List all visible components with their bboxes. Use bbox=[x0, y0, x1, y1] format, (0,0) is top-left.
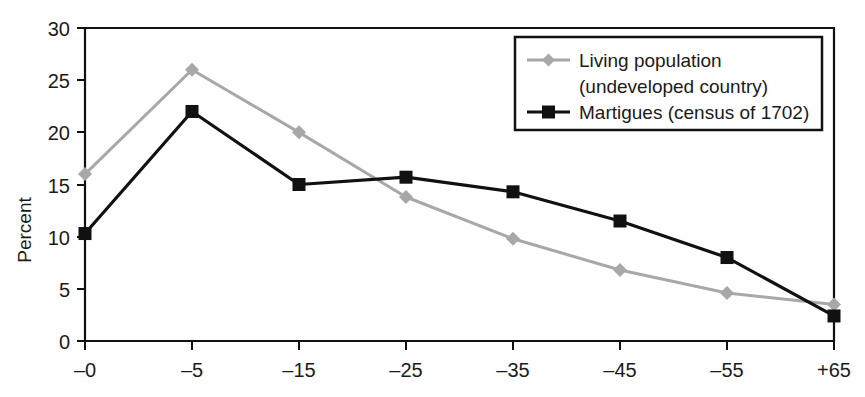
y-axis-labels: 30 25 20 15 10 5 0 bbox=[48, 18, 70, 353]
y-axis-ticks bbox=[77, 28, 85, 341]
y-axis-label-10: 10 bbox=[48, 227, 70, 249]
data-point bbox=[720, 286, 734, 300]
data-point bbox=[827, 297, 841, 311]
line-chart: 30 25 20 15 10 5 0 Percent –0 –5 –15 –25 bbox=[0, 0, 865, 397]
data-point bbox=[613, 263, 627, 277]
y-axis-label-0: 0 bbox=[59, 331, 70, 353]
data-point bbox=[79, 227, 92, 240]
y-axis-label-25: 25 bbox=[48, 70, 70, 92]
legend-label-living-population-line2: (undeveloped country) bbox=[579, 76, 768, 97]
x-axis-label-6: –55 bbox=[710, 359, 743, 381]
y-axis-title: Percent bbox=[14, 197, 35, 263]
data-point bbox=[614, 215, 627, 228]
x-axis-label-1: –5 bbox=[181, 359, 203, 381]
data-point bbox=[399, 190, 413, 204]
y-axis-label-15: 15 bbox=[48, 175, 70, 197]
data-point bbox=[292, 125, 306, 139]
x-axis-label-2: –15 bbox=[282, 359, 315, 381]
y-axis-label-5: 5 bbox=[59, 279, 70, 301]
legend-label-living-population-line1: Living population bbox=[579, 50, 722, 71]
legend-label-martigues: Martigues (census of 1702) bbox=[579, 102, 809, 123]
data-point bbox=[721, 251, 734, 264]
data-point bbox=[506, 232, 520, 246]
x-axis-label-7: +65 bbox=[817, 359, 851, 381]
chart-legend: Living population (undeveloped country) … bbox=[515, 37, 822, 130]
x-axis-label-3: –25 bbox=[389, 359, 422, 381]
y-axis-label-30: 30 bbox=[48, 18, 70, 40]
x-axis-label-5: –45 bbox=[603, 359, 636, 381]
y-axis-label-20: 20 bbox=[48, 122, 70, 144]
chart-container: 30 25 20 15 10 5 0 Percent –0 –5 –15 –25 bbox=[0, 0, 865, 397]
x-axis-label-0: –0 bbox=[74, 359, 96, 381]
data-point bbox=[400, 171, 413, 184]
data-point bbox=[293, 178, 306, 191]
x-axis-ticks bbox=[85, 341, 834, 350]
series-line bbox=[85, 111, 834, 315]
data-point bbox=[507, 185, 520, 198]
data-point bbox=[186, 105, 199, 118]
x-axis-label-4: –35 bbox=[496, 359, 529, 381]
data-point bbox=[828, 309, 841, 322]
x-axis-labels: –0 –5 –15 –25 –35 –45 –55 +65 bbox=[74, 359, 851, 381]
